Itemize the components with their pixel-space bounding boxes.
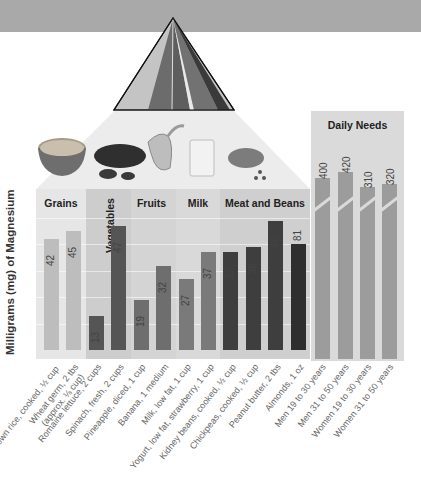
- value-label: 27: [180, 295, 191, 306]
- y-axis-label: Milligrams (mg) of Magnesium: [4, 190, 16, 356]
- bar-kidney-beans: [223, 252, 238, 350]
- value-label: 47: [112, 242, 123, 253]
- value-label: 39: [247, 263, 258, 274]
- bar-milk: [179, 279, 194, 350]
- bar-women-19-30: [360, 187, 375, 359]
- value-label: 19: [135, 316, 146, 327]
- bar-men-31-50: [338, 172, 353, 359]
- grains-bowl-icon: [36, 130, 88, 180]
- needs-value-label: 420: [341, 156, 352, 173]
- beans-nuts-icon: [226, 144, 274, 184]
- value-label: 37: [202, 268, 213, 279]
- daily-needs-title: Daily Needs: [311, 119, 404, 131]
- bar-banana: [156, 266, 171, 350]
- daily-needs-panel: Daily Needs: [311, 111, 404, 361]
- value-label: 45: [67, 247, 78, 258]
- value-label: 13: [90, 332, 101, 343]
- value-label: 32: [157, 282, 168, 293]
- bar-yogurt: [201, 252, 216, 350]
- needs-value-label: 320: [385, 168, 396, 185]
- food-pyramid-icon: [0, 0, 421, 120]
- milk-glass-icon: [188, 138, 216, 178]
- bar-almonds-visible: [291, 244, 306, 350]
- value-label: 37: [224, 268, 235, 279]
- needs-value-label: 310: [363, 171, 374, 188]
- needs-value-label: 400: [318, 162, 329, 179]
- value-label: 81: [292, 230, 303, 241]
- bar-women-31-50: [382, 184, 397, 359]
- banana-icon: [140, 122, 188, 176]
- value-label: 42: [45, 255, 56, 266]
- value-label: 49: [269, 237, 280, 248]
- bar-men-19-30: [315, 178, 330, 359]
- plot-area: [36, 189, 298, 359]
